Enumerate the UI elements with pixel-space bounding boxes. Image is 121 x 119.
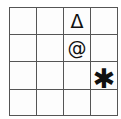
grid-cell-r3c3[interactable] (64, 61, 91, 89)
grid-row (10, 89, 118, 116)
grid-cell-r1c3[interactable]: Δ (64, 8, 91, 35)
grid-cell-r4c2[interactable] (37, 89, 64, 116)
grid-cell-r1c4[interactable] (91, 8, 118, 35)
symbol-grid-container: Δ @ ✱ (9, 7, 113, 110)
grid-cell-r3c2[interactable] (37, 61, 64, 89)
grid-cell-r3c4[interactable]: ✱ (91, 61, 118, 89)
grid-cell-r2c3[interactable]: @ (64, 34, 91, 61)
grid-row: Δ (10, 8, 118, 35)
grid-cell-r1c2[interactable] (37, 8, 64, 35)
grid-cell-r4c4[interactable] (91, 89, 118, 116)
grid-cell-r2c2[interactable] (37, 34, 64, 61)
grid-cell-r2c1[interactable] (10, 34, 37, 61)
at-sign-icon: @ (64, 39, 90, 58)
grid-cell-r1c1[interactable] (10, 8, 37, 35)
symbol-grid: Δ @ ✱ (9, 7, 118, 116)
grid-row: @ (10, 34, 118, 61)
grid-row: ✱ (10, 61, 118, 89)
grid-cell-r3c1[interactable] (10, 61, 37, 89)
grid-cell-r4c1[interactable] (10, 89, 37, 116)
grid-cell-r2c4[interactable] (91, 34, 118, 61)
heavy-asterisk-icon: ✱ (91, 65, 117, 92)
delta-triangle-icon: Δ (64, 12, 90, 31)
grid-cell-r4c3[interactable] (64, 89, 91, 116)
